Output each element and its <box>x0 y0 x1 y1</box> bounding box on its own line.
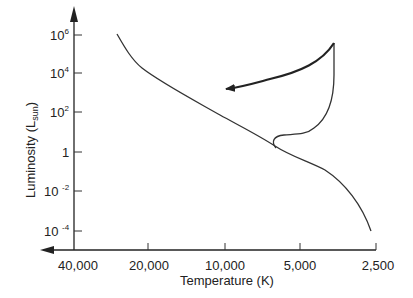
x-tick-label: 5,000 <box>284 258 317 273</box>
y-tick-label: 10 -2 <box>44 183 70 199</box>
y-axis-arrow-icon <box>70 6 78 22</box>
main-sequence-curve <box>117 34 371 231</box>
y-tick-label: 1 <box>62 145 69 160</box>
x-tick-label: 2,500 <box>362 258 395 273</box>
x-axis-title: Temperature (K) <box>180 273 274 288</box>
y-tick-label: 10 -4 <box>44 223 70 239</box>
y-tick-label: 106 <box>50 27 69 43</box>
evolutionary-track-arrow <box>226 43 334 89</box>
evolutionary-track-curve <box>273 43 334 148</box>
x-tick-label: 40,000 <box>58 258 98 273</box>
y-tick-label: 102 <box>50 104 69 120</box>
y-axis <box>70 6 82 250</box>
hr-diagram-chart: 106 104 102 1 10 -2 10 -4 Luminosity (Ls… <box>0 0 413 298</box>
y-axis-title: Luminosity (Lsun) <box>23 102 40 198</box>
y-tick-labels: 106 104 102 1 10 -2 10 -4 <box>44 27 70 239</box>
x-tick-labels: 40,000 20,000 10,000 5,000 2,500 <box>58 258 394 273</box>
x-axis-arrow-icon <box>40 246 54 254</box>
x-axis <box>40 243 376 254</box>
y-tick-label: 104 <box>50 65 69 81</box>
x-tick-label: 10,000 <box>205 258 245 273</box>
x-tick-label: 20,000 <box>129 258 169 273</box>
